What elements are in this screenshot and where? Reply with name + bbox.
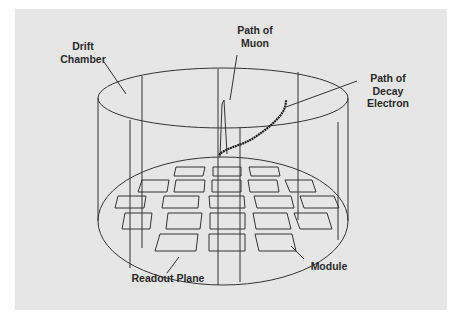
muon-path	[220, 100, 227, 157]
module-label: Module	[308, 260, 350, 273]
module-leader	[291, 246, 304, 259]
modules	[115, 167, 339, 251]
muon-leader	[230, 55, 237, 100]
decay-electron-label: Path of Decay Electron	[358, 72, 418, 110]
drift-chamber-label: Drift Chamber	[54, 40, 112, 65]
readout-plane-leader	[167, 257, 179, 273]
readout-plane-label: Readout Plane	[128, 272, 208, 285]
drift-chamber-leader	[104, 62, 126, 94]
muon-label: Path of Muon	[230, 24, 280, 49]
